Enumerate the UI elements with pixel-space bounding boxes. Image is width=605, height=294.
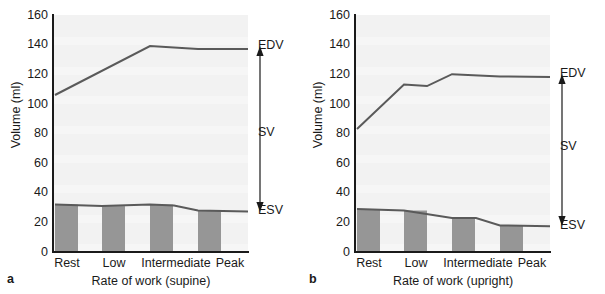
y-tick-40-a: 40: [6, 186, 48, 199]
y-tick-20-b: 20: [308, 216, 350, 229]
y-tick-0-a: 0: [6, 246, 48, 259]
y-tick-160-a: 160: [6, 9, 48, 22]
x-tick-peak-a: Peak: [210, 256, 250, 270]
y-tick-60-b: 60: [308, 157, 350, 170]
x-tick-peak-b: Peak: [512, 256, 552, 270]
x-axis-line-a: [52, 251, 249, 253]
y-tick-40-b: 40: [308, 186, 350, 199]
y-tick-160-b: 160: [308, 9, 350, 22]
plot-area-b: [356, 15, 550, 252]
y-tick-0-b: 0: [308, 246, 350, 259]
y-axis-line-b: [354, 14, 356, 253]
y-axis-line-a: [52, 14, 54, 253]
y-tick-140-a: 140: [6, 38, 48, 51]
x-axis-title-a: Rate of work (supine): [53, 274, 249, 288]
plot-area-a: [54, 15, 248, 252]
x-tick-intermediate-a: Intermediate: [131, 256, 221, 270]
panel-label-a: a: [7, 272, 14, 286]
y-tick-80-a: 80: [6, 127, 48, 140]
y-tick-120-a: 120: [6, 68, 48, 81]
x-axis-line-b: [354, 251, 551, 253]
x-tick-rest-a: Rest: [44, 256, 90, 270]
sv-range-arrow-b: [555, 72, 569, 228]
y-tick-100-a: 100: [6, 98, 48, 111]
panel-a: Volume (ml) 160 140 120 100 80 60 40 20 …: [0, 0, 302, 294]
panel-label-b: b: [309, 272, 317, 286]
y-tick-60-a: 60: [6, 157, 48, 170]
x-tick-intermediate-b: Intermediate: [433, 256, 523, 270]
plot-graphics-b: [356, 15, 550, 252]
y-tick-20-a: 20: [6, 216, 48, 229]
sv-range-arrow-a: [253, 44, 267, 214]
figure-cardiac-volumes: Volume (ml) 160 140 120 100 80 60 40 20 …: [0, 0, 605, 294]
panel-b: Volume (ml) 160 140 120 100 80 60 40 20 …: [302, 0, 604, 294]
y-tick-120-b: 120: [308, 68, 350, 81]
background-bands-b: [356, 15, 550, 252]
y-tick-140-b: 140: [308, 38, 350, 51]
x-tick-low-b: Low: [396, 256, 436, 270]
x-tick-rest-b: Rest: [346, 256, 392, 270]
y-tick-80-b: 80: [308, 127, 350, 140]
plot-graphics-a: [54, 15, 248, 252]
y-tick-100-b: 100: [308, 98, 350, 111]
x-axis-title-b: Rate of work (upright): [355, 274, 551, 288]
x-tick-low-a: Low: [94, 256, 134, 270]
